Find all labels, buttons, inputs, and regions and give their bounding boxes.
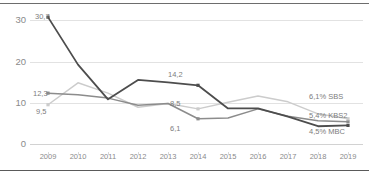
series-markers xyxy=(46,16,349,127)
data-label-sbs-2009: 9,5 xyxy=(36,107,46,116)
x-tickmark xyxy=(258,152,259,155)
data-label-sbs-2014: 8,5 xyxy=(170,99,180,108)
x-tickmark xyxy=(318,152,319,155)
x-tickmark xyxy=(228,152,229,155)
data-label-mbc-2009: 30,7 xyxy=(35,12,50,21)
x-tickmark xyxy=(168,152,169,155)
series-label-kbs2: 5,4% KBS2 xyxy=(309,111,347,120)
y-tick-10: 10 xyxy=(4,98,26,108)
line-chart-figure: 30 20 10 0 30,7 12,3 9,5 14,2 8,5 6,1 6,… xyxy=(0,0,369,177)
x-tickmark xyxy=(138,152,139,155)
x-tickmark xyxy=(48,152,49,155)
y-tick-30: 30 xyxy=(4,15,26,25)
figure-bottom-border xyxy=(0,170,369,171)
figure-top-border xyxy=(0,3,369,4)
y-axis: 30 20 10 0 xyxy=(0,12,26,148)
data-label-mbc-2014: 14,2 xyxy=(168,70,183,79)
data-label-kbs2-2014: 6,1 xyxy=(170,124,180,133)
data-label-kbs2-2009: 12,3 xyxy=(33,89,48,98)
x-axis: 2009 2010 2011 2012 2013 2014 2015 2016 … xyxy=(30,152,363,164)
x-tickmark xyxy=(108,152,109,155)
y-tick-20: 20 xyxy=(4,57,26,67)
x-tickmark xyxy=(78,152,79,155)
series-label-mbc: 4,5% MBC xyxy=(309,127,345,136)
x-tickmark xyxy=(288,152,289,155)
series-line-sbs xyxy=(48,83,348,119)
x-tickmark xyxy=(348,152,349,155)
x-tickmark xyxy=(198,152,199,155)
y-tick-0: 0 xyxy=(4,139,26,149)
series-label-sbs: 6,1% SBS xyxy=(309,92,343,101)
